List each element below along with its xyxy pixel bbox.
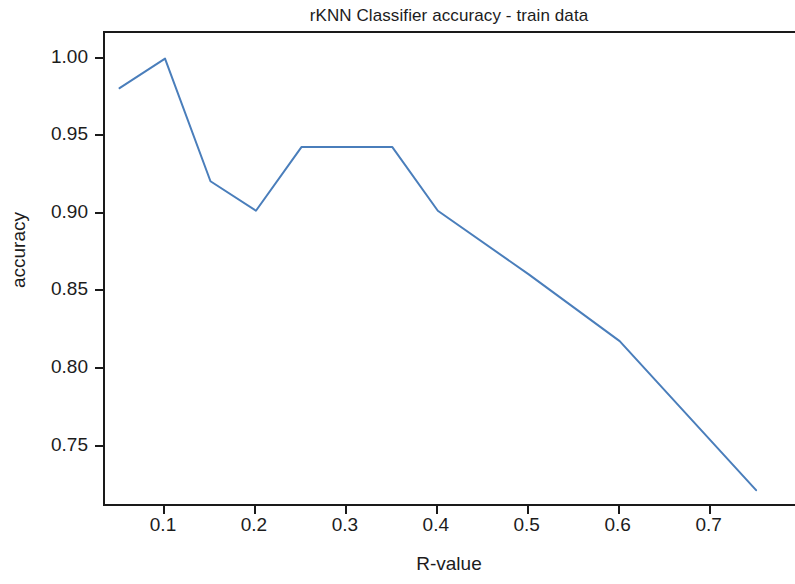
line-series-path xyxy=(120,59,757,491)
x-axis-tick-label: 0.1 xyxy=(123,515,203,535)
y-axis-tick-label: 0.95 xyxy=(51,124,88,143)
x-axis-tick-mark xyxy=(527,506,529,514)
y-axis-tick-label: 0.85 xyxy=(51,279,88,298)
x-axis-tick-label: 0.6 xyxy=(578,515,658,535)
y-axis-tick-mark xyxy=(95,289,103,291)
x-axis-label: R-value xyxy=(103,553,795,574)
x-axis-tick-label: 0.5 xyxy=(487,515,567,535)
x-axis-tick-mark xyxy=(618,506,620,514)
x-axis-tick-label: 0.4 xyxy=(396,515,476,535)
chart-title: rKNN Classifier accuracy - train data xyxy=(103,6,795,26)
x-axis-tick-mark xyxy=(163,506,165,514)
x-axis-tick-mark xyxy=(709,506,711,514)
y-axis-tick-label: 0.80 xyxy=(51,357,88,376)
x-axis-tick-mark xyxy=(254,506,256,514)
x-axis-tick-label: 0.2 xyxy=(214,515,294,535)
x-axis-tick-mark xyxy=(436,506,438,514)
x-axis-tick-label: 0.7 xyxy=(669,515,749,535)
y-axis-tick-mark xyxy=(95,367,103,369)
y-axis-tick-mark xyxy=(95,57,103,59)
y-axis-tick-label: 1.00 xyxy=(51,47,88,66)
x-axis-tick-label: 0.3 xyxy=(305,515,385,535)
chart-figure: rKNN Classifier accuracy - train data ac… xyxy=(0,0,795,584)
y-axis-tick-label: 0.90 xyxy=(51,202,88,221)
x-axis-tick-mark xyxy=(345,506,347,514)
plot-area xyxy=(103,31,795,506)
y-axis-tick-mark xyxy=(95,212,103,214)
line-series-svg xyxy=(105,33,795,508)
y-axis-tick-mark xyxy=(95,445,103,447)
y-axis-tick-mark xyxy=(95,134,103,136)
y-axis-tick-label: 0.75 xyxy=(51,435,88,454)
y-axis-tick-labels: 1.000.950.900.850.800.75 xyxy=(0,0,88,584)
